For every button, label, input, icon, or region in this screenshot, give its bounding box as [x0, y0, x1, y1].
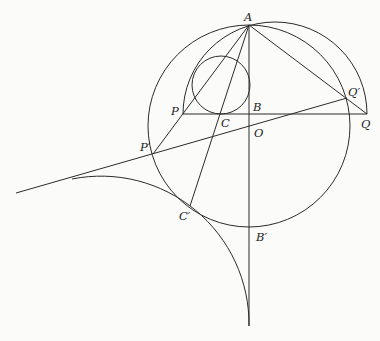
- label-P: P: [170, 104, 179, 118]
- segment-AC-prime: [190, 25, 249, 206]
- label-Q: Q: [361, 117, 371, 131]
- segment-AP-prime: [153, 25, 249, 154]
- shapes-layer: [16, 22, 367, 326]
- label-B: B: [252, 100, 261, 114]
- segment-AQ: [249, 25, 367, 114]
- diagram-canvas: A P C B Q Q′ O P′ C′ B′: [0, 0, 380, 341]
- geometry-figure: A P C B Q Q′ O P′ C′ B′: [0, 0, 380, 341]
- label-P-prime: P′: [139, 140, 151, 154]
- incircle: [192, 56, 250, 114]
- label-O: O: [254, 126, 264, 140]
- tangent-arc: [72, 176, 249, 326]
- label-B-prime: B′: [255, 230, 267, 244]
- label-A: A: [243, 10, 252, 24]
- label-C-prime: C′: [179, 209, 191, 223]
- label-C: C: [221, 116, 230, 130]
- label-Q-prime: Q′: [348, 85, 360, 99]
- line-P-prime-Q-prime: [16, 98, 347, 193]
